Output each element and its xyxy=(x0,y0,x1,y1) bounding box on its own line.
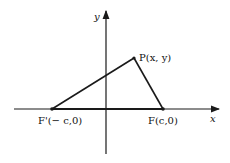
point-p-label: P(x, y) xyxy=(139,52,171,63)
point-f-label: F(c,0) xyxy=(148,115,178,126)
point-f-prime-label: F'(− c,0) xyxy=(38,115,82,126)
segment-fprime-p xyxy=(52,58,134,109)
ellipse-foci-diagram: y x P(x, y) F'(− c,0) F(c,0) xyxy=(0,0,230,163)
segment-p-f xyxy=(134,58,163,109)
point-p xyxy=(132,56,135,59)
point-f-prime xyxy=(50,107,54,111)
point-f xyxy=(161,107,165,111)
y-axis-label: y xyxy=(93,11,100,22)
x-axis-label: x xyxy=(210,113,216,124)
